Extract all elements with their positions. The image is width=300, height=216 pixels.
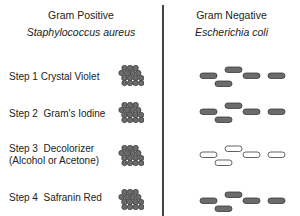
- gram-negative-species: Escherichia coli: [163, 26, 300, 39]
- cocci-cluster-step-4: [116, 189, 144, 211]
- step-3-label: Step 3 Decolorizer (Alcohol or Acetone): [9, 143, 99, 167]
- gram-positive-species: Staphylococcus aureus: [0, 26, 162, 39]
- bacilli-icon: [195, 187, 295, 216]
- rods-step-4: [195, 187, 295, 216]
- cocci-icon: [116, 145, 144, 167]
- rods-step-1: [195, 62, 295, 92]
- cocci-icon: [116, 65, 144, 87]
- gram-positive-title: Gram Positive: [0, 9, 162, 22]
- cocci-icon: [116, 102, 144, 124]
- gram-positive-header: Gram Positive Staphylococcus aureus: [0, 9, 162, 39]
- rods-step-3: [195, 141, 295, 171]
- step-4-label: Step 4 Safranin Red: [9, 192, 102, 204]
- cocci-cluster-step-2: [116, 102, 144, 124]
- gram-negative-header: Gram Negative Escherichia coli: [163, 9, 300, 39]
- bacilli-icon: [195, 98, 295, 128]
- gram-negative-title: Gram Negative: [163, 9, 300, 22]
- cocci-cluster-step-1: [116, 65, 144, 87]
- step-2-label: Step 2 Gram's Iodine: [9, 108, 105, 120]
- bacilli-icon: [195, 62, 295, 92]
- cocci-cluster-step-3: [116, 145, 144, 167]
- cocci-icon: [116, 189, 144, 211]
- bacilli-icon: [195, 141, 295, 171]
- rods-step-2: [195, 98, 295, 128]
- step-1-label: Step 1 Crystal Violet: [9, 71, 99, 83]
